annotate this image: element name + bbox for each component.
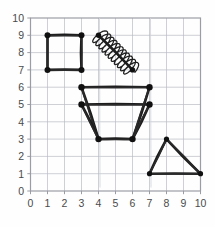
y-tick-label: 1: [18, 168, 24, 180]
x-tick-label: 0: [28, 197, 34, 209]
vertex-marker: [79, 32, 85, 38]
vertex-marker: [45, 67, 51, 73]
vertex-marker: [164, 137, 169, 142]
vertex-marker: [146, 101, 152, 107]
faint-pencil-guide: [100, 18, 101, 188]
y-tick-label: 8: [18, 46, 24, 58]
y-tick-label: 9: [18, 29, 24, 41]
x-tick-label: 1: [45, 197, 51, 209]
grid-figure: 012345678910 012345678910: [0, 0, 215, 227]
x-tick-label: 7: [147, 197, 153, 209]
x-tick-label: 10: [195, 197, 207, 209]
vertex-marker: [95, 136, 101, 142]
y-axis-tick-labels: 012345678910: [12, 12, 24, 197]
vertex-marker: [146, 84, 152, 90]
y-tick-label: 2: [18, 150, 24, 162]
vertex-marker: [79, 67, 85, 73]
x-axis-tick-labels: 012345678910: [28, 197, 207, 209]
y-tick-label: 6: [18, 81, 24, 93]
x-tick-label: 5: [113, 197, 119, 209]
y-tick-label: 3: [18, 133, 24, 145]
vertex-marker: [147, 171, 152, 176]
vertex-marker: [78, 101, 84, 107]
y-tick-label: 10: [12, 12, 24, 24]
plot-canvas: 012345678910 012345678910: [0, 0, 215, 227]
vertex-marker: [96, 33, 101, 38]
y-tick-label: 5: [18, 98, 24, 110]
y-tick-label: 0: [18, 185, 24, 197]
vertex-marker: [45, 32, 51, 38]
x-tick-label: 6: [130, 197, 136, 209]
vertex-marker: [129, 136, 135, 142]
x-tick-label: 8: [164, 197, 170, 209]
y-tick-label: 4: [18, 116, 24, 128]
x-tick-label: 3: [79, 197, 85, 209]
vertex-marker: [198, 171, 203, 176]
x-tick-label: 4: [96, 197, 102, 209]
x-tick-label: 9: [181, 197, 187, 209]
vertex-marker: [130, 67, 135, 72]
vertex-marker: [78, 84, 84, 90]
x-tick-label: 2: [62, 197, 68, 209]
y-tick-label: 7: [18, 64, 24, 76]
